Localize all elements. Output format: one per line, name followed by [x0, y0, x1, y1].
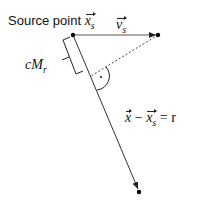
target-point [137, 190, 141, 194]
xs-vector: xs [146, 110, 156, 128]
diagram-canvas [0, 0, 202, 208]
minus-sign: − [135, 110, 143, 125]
right-angle-dot [100, 76, 102, 78]
m-symbol: M [31, 57, 43, 72]
velocity-label: vs [116, 17, 126, 35]
cmr-label: cMr [25, 57, 47, 75]
vs-vector: vs [116, 17, 126, 35]
source-point-text: Source point [8, 13, 81, 28]
r-subscript: r [43, 64, 47, 75]
x-vector: x [125, 110, 131, 126]
xs-vector: xs [85, 13, 95, 31]
cmr-bracket [62, 37, 83, 74]
s-subscript: s [152, 117, 156, 128]
source-point-label: Source point xs [8, 13, 95, 31]
equals-sign: = [160, 110, 168, 125]
perpendicular-dashed-line [91, 35, 158, 76]
right-angle-arc [97, 67, 109, 90]
velocity-tip-point [156, 33, 160, 37]
s-subscript: s [91, 20, 95, 31]
s-subscript: s [122, 24, 126, 35]
r-symbol: r [171, 110, 176, 125]
x-symbol: x [125, 110, 131, 125]
source-point [71, 33, 75, 37]
equation-label: x − xs = r [125, 110, 176, 128]
